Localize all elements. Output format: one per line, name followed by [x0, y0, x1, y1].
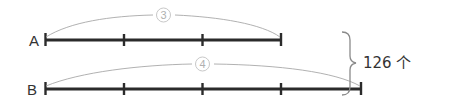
arc-a-right: [175, 15, 280, 37]
row-a: A 3: [29, 8, 281, 49]
total-label: 126 个: [363, 54, 411, 72]
curly-brace: [342, 32, 356, 95]
arc-b-right: [214, 64, 360, 86]
row-a-label: A: [29, 32, 39, 49]
row-b: B 4: [27, 57, 361, 98]
arc-b-left: [46, 64, 192, 86]
arc-a-left: [46, 15, 153, 37]
circled-number-a-text: 3: [160, 9, 166, 21]
row-b-label: B: [27, 81, 37, 98]
segment-diagram: A 3 B 4 126 个: [0, 0, 457, 106]
circled-number-b-text: 4: [199, 58, 205, 70]
